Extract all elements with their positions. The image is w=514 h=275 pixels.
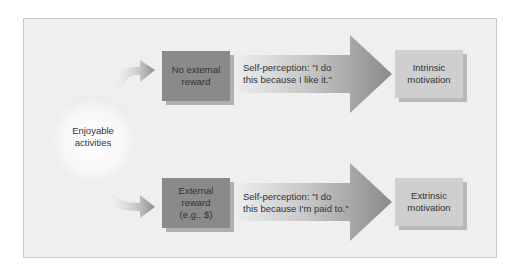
intrinsic-motivation-box: Intrinsic motivation xyxy=(395,50,463,98)
curved-arrow-bottom-icon xyxy=(104,190,155,218)
enjoyable-activities-label: Enjoyable activities xyxy=(51,125,135,149)
top-self-perception-text: Self-perception: "I do this because I li… xyxy=(243,62,332,86)
external-reward-box: External reward (e.g., $) xyxy=(162,178,230,228)
extrinsic-motivation-box: Extrinsic motivation xyxy=(395,178,463,226)
no-external-reward-box: No external reward xyxy=(162,51,230,101)
bottom-self-perception-text: Self-perception: "I do this because I'm … xyxy=(243,191,349,215)
curved-arrow-top-icon xyxy=(112,60,155,88)
